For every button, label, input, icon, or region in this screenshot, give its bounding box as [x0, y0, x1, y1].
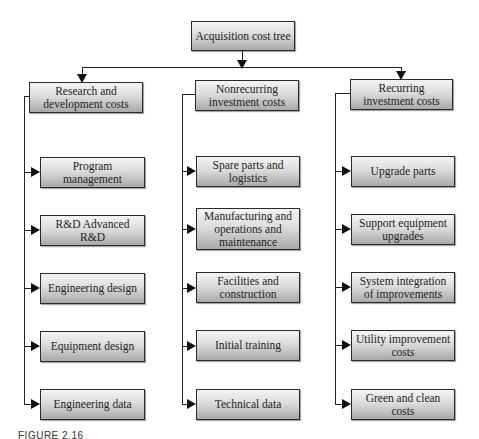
- leaf-label: Engineering design: [48, 282, 137, 295]
- branch-label-line: Nonrecurring: [216, 83, 278, 95]
- leaf-label: Utility improvement costs: [355, 333, 451, 359]
- branch-2-elbow: [182, 94, 196, 95]
- branch-label-line: investment costs: [209, 96, 285, 108]
- arrow-right-icon: [342, 399, 351, 409]
- branch-label-line: Recurring: [379, 82, 425, 94]
- root-node: Acquisition cost tree: [191, 21, 295, 51]
- arrow-right-icon: [31, 167, 40, 177]
- arrow-right-icon: [342, 340, 351, 350]
- leaf-label: R&D Advanced R&D: [44, 218, 141, 244]
- arrow-right-icon: [187, 166, 196, 176]
- leaf-label: Engineering data: [53, 398, 131, 411]
- leaf-node: Spare parts and logistics: [196, 156, 300, 187]
- branch-node-recurring: Recurring investment costs: [350, 79, 453, 110]
- leaf-label: Green and clean costs: [355, 392, 451, 418]
- branch-node-research-development: Research and development costs: [29, 82, 143, 113]
- figure-caption: FIGURE 2.16: [18, 430, 84, 439]
- branch-2-trunk: [182, 94, 183, 405]
- leaf-label: Program management: [44, 160, 141, 186]
- leaf-label: Equipment design: [51, 340, 134, 353]
- arrow-right-icon: [31, 225, 40, 235]
- leaf-label: Support equipment upgrades: [355, 217, 451, 243]
- branch-3-trunk: [335, 93, 336, 405]
- leaf-node: Support equipment upgrades: [351, 214, 455, 245]
- leaf-node: Utility improvement costs: [351, 330, 455, 361]
- arrow-down-icon: [237, 60, 247, 69]
- root-label: Acquisition cost tree: [195, 30, 290, 43]
- leaf-node: Engineering data: [40, 389, 145, 420]
- branch-label: Nonrecurring investment costs: [209, 83, 285, 109]
- leaf-node: System integration of improvements: [351, 272, 455, 303]
- leaf-label: Facilities and construction: [200, 275, 296, 301]
- branch-label-line: development costs: [43, 98, 128, 110]
- leaf-node: Initial training: [196, 330, 300, 361]
- leaf-node: Engineering design: [40, 273, 145, 304]
- leaf-node: Upgrade parts: [351, 156, 455, 187]
- branch-label-line: investment costs: [363, 95, 439, 107]
- leaf-node: Facilities and construction: [196, 272, 300, 303]
- leaf-label: Spare parts and logistics: [200, 159, 296, 185]
- leaf-label: System integration of improvements: [355, 275, 451, 301]
- branch-3-elbow: [335, 93, 351, 94]
- arrow-right-icon: [187, 399, 196, 409]
- leaf-node: Technical data: [196, 389, 300, 420]
- arrow-right-icon: [31, 283, 40, 293]
- leaf-node: Green and clean costs: [351, 389, 455, 420]
- arrow-right-icon: [187, 283, 196, 293]
- leaf-node: Manufacturing and operations and mainten…: [196, 208, 300, 250]
- branch-node-nonrecurring: Nonrecurring investment costs: [195, 80, 299, 111]
- arrow-right-icon: [342, 282, 351, 292]
- leaf-node: Program management: [40, 157, 145, 188]
- branch-label: Recurring investment costs: [363, 82, 439, 108]
- branch-label-line: Research and: [55, 85, 117, 97]
- arrow-right-icon: [31, 399, 40, 409]
- leaf-label: Manufacturing and operations and mainten…: [200, 210, 296, 249]
- branch-1-trunk: [24, 96, 25, 405]
- arrow-right-icon: [187, 341, 196, 351]
- leaf-label: Upgrade parts: [371, 165, 436, 178]
- arrow-right-icon: [342, 224, 351, 234]
- leaf-node: R&D Advanced R&D: [40, 215, 145, 246]
- leaf-label: Technical data: [215, 398, 282, 411]
- arrow-right-icon: [342, 166, 351, 176]
- branch-label: Research and development costs: [43, 85, 128, 111]
- arrow-right-icon: [187, 224, 196, 234]
- arrow-right-icon: [31, 341, 40, 351]
- leaf-node: Equipment design: [40, 331, 145, 362]
- leaf-label: Initial training: [215, 339, 281, 352]
